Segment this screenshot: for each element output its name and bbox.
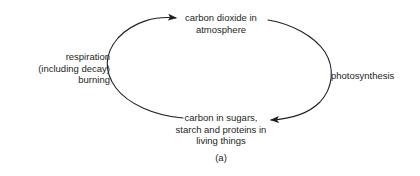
carbon-cycle-figure: carbon dioxide in atmosphere carbon in s… (0, 0, 420, 176)
node-label-atmosphere: carbon dioxide in atmosphere (161, 12, 281, 35)
figure-caption: (a) (171, 152, 271, 164)
arrow-label-respiration: respiration (including decay) burning (10, 51, 110, 86)
node-label-living-things: carbon in sugars, starch and proteins in… (145, 112, 297, 147)
photosynthesis-arrow-path (268, 20, 331, 120)
arrow-label-photosynthesis: photosynthesis (331, 70, 420, 82)
